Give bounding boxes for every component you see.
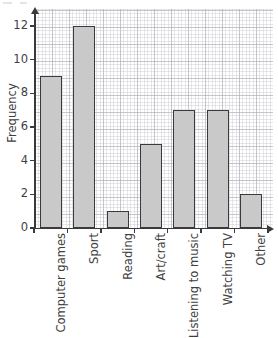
x-axis-tick-label: Listening to music [189, 233, 201, 338]
y-axis-tick [30, 25, 34, 26]
x-axis-tick-label: Watching TV [223, 233, 235, 305]
bar [140, 144, 162, 228]
bar [240, 194, 262, 228]
y-axis-tick-label: 2 [2, 188, 28, 200]
x-axis-tick-label: Other [256, 233, 268, 266]
x-axis-tick-label: Computer games [56, 233, 68, 332]
x-axis-tick [33, 228, 34, 233]
scan-artifact [3, 2, 12, 4]
y-axis-tick-label: 8 [2, 87, 28, 99]
x-axis-tick-label: Reading [123, 233, 135, 280]
y-axis-tick-label: 10 [2, 54, 28, 66]
y-axis-line [34, 13, 36, 228]
bar [40, 76, 62, 228]
y-axis-tick [30, 93, 34, 94]
bar [173, 110, 195, 228]
bar [73, 26, 95, 228]
y-axis-tick-label: 0 [2, 222, 28, 234]
x-axis-tick-label: Art/craft [156, 233, 168, 280]
x-axis-tick-label: Sport [89, 233, 101, 264]
bar [207, 110, 229, 228]
y-axis-title: Frequency [5, 73, 19, 153]
y-axis-tick [30, 59, 34, 60]
bar [107, 211, 129, 228]
y-axis-tick-label: 12 [2, 20, 28, 32]
y-axis-tick-label: 6 [2, 121, 28, 133]
y-axis-tick [30, 126, 34, 127]
y-axis-tick [30, 194, 34, 195]
y-axis-arrow-icon [31, 7, 39, 14]
scan-artifact [20, 2, 27, 4]
y-axis-tick-label: 4 [2, 155, 28, 167]
y-axis-tick [30, 160, 34, 161]
